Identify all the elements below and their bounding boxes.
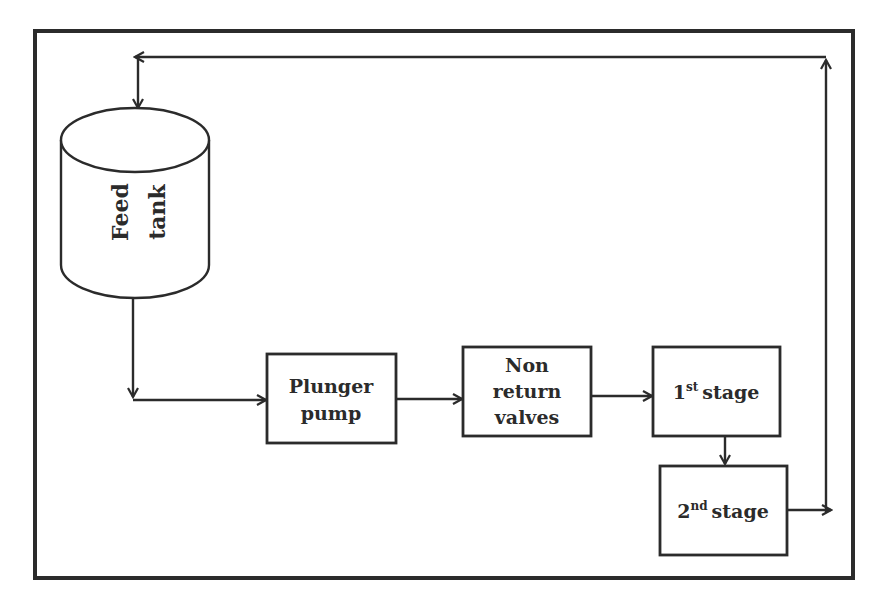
- feed-tank: Feed tank: [61, 108, 209, 298]
- process-flow-diagram: Feed tank Plunger pump Non return valves…: [0, 0, 884, 602]
- tank-to-pump-connector: [133, 298, 266, 400]
- stage2-box: 2ndstage: [660, 466, 787, 555]
- plunger-pump-label-line2: pump: [301, 402, 362, 424]
- return-loop-connector: [135, 57, 826, 512]
- stage1-box: 1ststage: [653, 347, 780, 436]
- valves-label-line3: valves: [494, 406, 559, 428]
- stage1-label: 1ststage: [673, 380, 760, 403]
- non-return-valves-box: Non return valves: [463, 347, 591, 436]
- feed-tank-label-line2: tank: [144, 183, 170, 239]
- valves-label-line1: Non: [505, 354, 549, 376]
- plunger-pump-label-line1: Plunger: [289, 375, 375, 397]
- plunger-pump-box: Plunger pump: [267, 354, 396, 443]
- feed-tank-label-line1: Feed: [107, 183, 133, 241]
- valves-label-line2: return: [493, 380, 562, 402]
